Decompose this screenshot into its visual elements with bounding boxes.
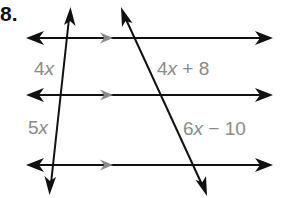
label-constant: + 8	[177, 58, 209, 79]
label-left-top: 4x	[34, 58, 54, 80]
up-arrowhead-icon	[121, 7, 133, 27]
label-coefficient: 6	[183, 118, 194, 139]
label-left-bottom: 5x	[28, 117, 48, 139]
label-variable: x	[45, 58, 55, 79]
label-variable: x	[39, 117, 49, 138]
parallel-line-3	[26, 158, 273, 172]
up-arrowhead-icon	[64, 7, 76, 26]
label-right-bottom: 6x − 10	[183, 118, 246, 140]
parallel-lines-diagram	[0, 0, 281, 198]
label-variable: x	[168, 58, 178, 79]
parallel-line-2	[26, 88, 273, 102]
label-coefficient: 4	[157, 58, 168, 79]
label-right-top: 4x + 8	[157, 58, 209, 80]
down-arrowhead-icon	[196, 176, 208, 196]
parallel-line-1	[26, 31, 273, 45]
label-constant: − 10	[203, 118, 246, 139]
transversal-left	[45, 7, 76, 195]
label-coefficient: 4	[34, 58, 45, 79]
label-coefficient: 5	[28, 117, 39, 138]
label-variable: x	[194, 118, 204, 139]
down-arrowhead-icon	[45, 176, 57, 195]
transversal-right	[121, 7, 207, 196]
